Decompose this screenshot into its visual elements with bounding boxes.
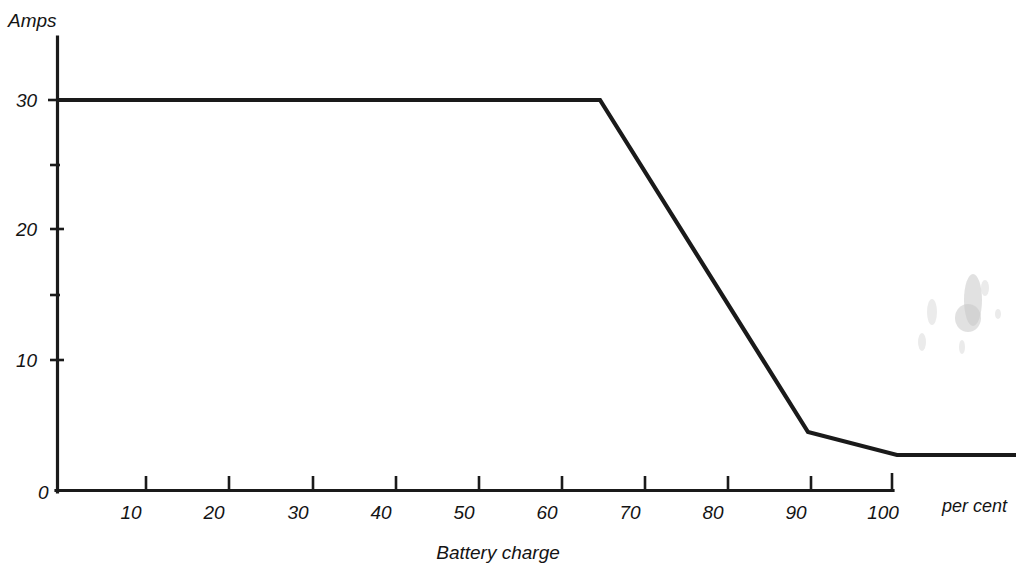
y-axis-title: Amps xyxy=(7,10,57,31)
y-tick-label-10: 10 xyxy=(16,350,38,371)
x-tick-label-60: 60 xyxy=(536,502,558,523)
x-tick-label-10: 10 xyxy=(120,502,142,523)
x-tick-label-50: 50 xyxy=(453,502,475,523)
x-tick-label-40: 40 xyxy=(370,502,392,523)
x-tick-label-90: 90 xyxy=(785,502,807,523)
x-tick-label-100: 100 xyxy=(867,502,899,523)
y-tick-label-0: 0 xyxy=(38,482,49,503)
battery-charge-current-chart: Amps 30 20 10 0 xyxy=(0,0,1024,572)
x-tick-label-20: 20 xyxy=(202,502,225,523)
x-axis-title: Battery charge xyxy=(436,542,560,563)
y-tick-label-20: 20 xyxy=(15,219,38,240)
x-tick-label-30: 30 xyxy=(287,502,309,523)
x-tick-label-80: 80 xyxy=(702,502,724,523)
chart-page: Amps 30 20 10 0 xyxy=(0,0,1024,572)
charging-current-curve xyxy=(57,100,1016,455)
x-axis-unit-label: per cent xyxy=(941,496,1008,516)
scan-smudge-artifact xyxy=(918,274,1001,354)
x-tick-label-70: 70 xyxy=(619,502,641,523)
y-tick-label-30: 30 xyxy=(16,90,38,111)
